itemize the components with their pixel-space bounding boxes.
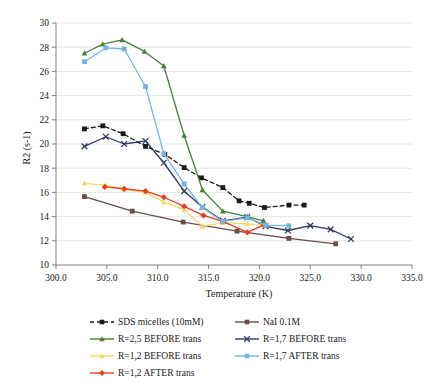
legend-label: R=2,5 BEFORE trans: [118, 334, 202, 344]
r2-vs-temperature-line-chart: 1012141618202224262830 300.0305.0310.031…: [0, 0, 433, 386]
y-tick-label: 26: [40, 67, 50, 77]
series-line: [84, 48, 288, 226]
data-point-cross: [181, 188, 187, 194]
data-point-diamond: [99, 370, 105, 376]
legend-item[interactable]: R=1,7 AFTER trans: [235, 351, 340, 361]
data-point-square: [182, 182, 187, 187]
y-axis-title: R2 (s-1): [21, 131, 33, 164]
legend-label: NaI 0.1M: [263, 317, 300, 327]
data-point-square: [287, 203, 292, 208]
series-line: [84, 40, 263, 221]
series-r-1-7-after-trans: [82, 45, 291, 228]
data-point-square: [103, 45, 108, 50]
data-point-square: [130, 209, 135, 214]
data-point-square: [82, 59, 87, 64]
data-point-square: [200, 205, 205, 210]
data-point-triangle: [200, 187, 206, 192]
data-point-square: [235, 229, 240, 234]
data-point-square: [245, 354, 250, 359]
y-tick-label: 18: [40, 164, 50, 174]
data-point-triangle: [181, 133, 187, 138]
data-point-cross: [161, 160, 167, 166]
legend-label: R=1,2 AFTER trans: [118, 368, 195, 378]
data-point-square: [181, 220, 186, 225]
data-point-square: [121, 131, 126, 136]
chart-legend: SDS micelles (10mM)NaI 0.1MR=2,5 BEFORE …: [90, 317, 347, 378]
legend-item[interactable]: NaI 0.1M: [235, 317, 300, 327]
y-tick-label: 20: [40, 139, 50, 149]
y-tick-label: 24: [40, 91, 50, 101]
data-point-square: [220, 219, 225, 224]
data-point-cross: [103, 134, 109, 140]
data-point-square: [263, 223, 268, 228]
x-axis-ticks: 300.0305.0310.0315.0320.0325.0330.0335.0: [45, 265, 423, 283]
data-point-square: [245, 215, 250, 220]
data-point-triangle: [119, 37, 125, 42]
data-point-square: [122, 47, 127, 52]
data-point-square: [161, 151, 166, 156]
y-tick-label: 30: [40, 18, 50, 28]
legend-label: SDS micelles (10mM): [118, 317, 204, 328]
x-tick-label: 320.0: [249, 273, 271, 283]
y-tick-label: 14: [40, 212, 50, 222]
data-point-square: [287, 236, 292, 241]
data-point-square: [220, 185, 225, 190]
data-point-square: [247, 201, 252, 206]
x-tick-label: 315.0: [198, 273, 220, 283]
data-series: [82, 37, 354, 246]
data-point-square: [199, 175, 204, 180]
x-tick-label: 310.0: [147, 273, 169, 283]
data-point-square: [182, 165, 187, 170]
data-point-square: [302, 203, 307, 208]
legend-item[interactable]: R=2,5 BEFORE trans: [90, 334, 202, 344]
x-axis-title: Temperature (K): [206, 288, 273, 300]
x-tick-label: 325.0: [300, 273, 322, 283]
y-tick-label: 16: [40, 188, 50, 198]
data-point-diamond: [161, 194, 167, 200]
y-tick-label: 28: [40, 43, 50, 53]
data-point-square: [287, 223, 292, 228]
data-point-square: [143, 84, 148, 89]
data-point-square: [100, 123, 105, 128]
legend-item[interactable]: R=1,2 AFTER trans: [90, 368, 195, 378]
data-point-diamond: [244, 229, 250, 235]
x-tick-label: 305.0: [96, 273, 118, 283]
chart-figure: 1012141618202224262830 300.0305.0310.031…: [0, 0, 433, 386]
data-point-square: [237, 198, 242, 203]
legend-item[interactable]: R=1,2 BEFORE trans: [90, 351, 202, 361]
data-point-square: [100, 320, 105, 325]
legend-label: R=1,7 BEFORE trans: [263, 334, 347, 344]
data-point-square: [82, 194, 87, 199]
data-point-square: [82, 126, 87, 131]
y-axis-ticks: 1012141618202224262830: [40, 18, 57, 270]
y-tick-label: 10: [40, 260, 50, 270]
series-line: [84, 197, 335, 244]
legend-item[interactable]: SDS micelles (10mM): [90, 317, 204, 328]
y-tick-label: 12: [40, 236, 50, 246]
x-tick-label: 330.0: [350, 273, 372, 283]
data-point-square: [245, 320, 250, 325]
legend-label: R=1,2 BEFORE trans: [118, 351, 202, 361]
data-point-diamond: [200, 212, 206, 218]
data-point-square: [333, 241, 338, 246]
data-point-square: [262, 205, 267, 210]
series-nai-0-1m: [82, 194, 338, 246]
grid-lines: [56, 23, 412, 241]
x-tick-label: 335.0: [401, 273, 423, 283]
legend-label: R=1,7 AFTER trans: [263, 351, 340, 361]
series-r-2-5-before-trans: [82, 37, 267, 223]
x-tick-label: 300.0: [45, 273, 67, 283]
data-point-square: [143, 144, 148, 149]
y-tick-label: 22: [40, 115, 50, 125]
legend-item[interactable]: R=1,7 BEFORE trans: [235, 334, 347, 344]
